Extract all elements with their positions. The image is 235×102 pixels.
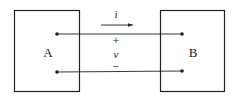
terminal-dot-a-bottom	[55, 70, 59, 74]
block-a-label: A	[43, 45, 53, 60]
block-a: A	[15, 11, 80, 92]
terminal-dot-a-top	[55, 32, 59, 36]
block-b-label: B	[189, 45, 198, 60]
current-symbol: i	[114, 8, 117, 20]
voltage-plus: +	[113, 34, 120, 48]
voltage-indicator: + v −	[113, 34, 120, 73]
terminal-dot-b-top	[180, 32, 184, 36]
top-wire	[55, 32, 184, 36]
voltage-minus: −	[113, 59, 120, 73]
current-indicator: i	[101, 8, 133, 25]
block-b: B	[161, 11, 225, 92]
two-port-connection-diagram: A B i + v −	[0, 0, 235, 102]
terminal-dot-b-bottom	[180, 69, 184, 73]
bottom-wire	[55, 69, 184, 74]
